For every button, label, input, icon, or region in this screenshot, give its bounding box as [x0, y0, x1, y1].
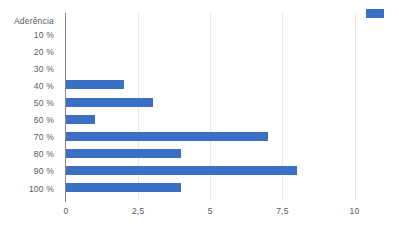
category-label: 60 %	[0, 115, 54, 125]
bar-chart: Aderência 10 %20 %30 %40 %50 %60 %70 %80…	[0, 0, 399, 229]
bar	[66, 149, 181, 158]
category-label: 80 %	[0, 149, 54, 159]
category-label: 30 %	[0, 64, 54, 74]
x-tick-label: 5	[190, 206, 230, 216]
x-tick-label: 0	[46, 206, 86, 216]
category-label: 100 %	[0, 184, 54, 194]
category-label: 20 %	[0, 47, 54, 57]
category-label: 70 %	[0, 132, 54, 142]
category-label: 90 %	[0, 166, 54, 176]
series-title-label: Aderência	[0, 16, 54, 26]
x-tick-label: 2,5	[118, 206, 158, 216]
category-label: 10 %	[0, 30, 54, 40]
bar	[66, 115, 95, 124]
category-label: 50 %	[0, 98, 54, 108]
bar	[66, 183, 181, 192]
bar	[66, 166, 297, 175]
x-tick-label: 7,5	[262, 206, 302, 216]
x-tick-label: 10	[335, 206, 375, 216]
category-axis-labels: Aderência 10 %20 %30 %40 %50 %60 %70 %80…	[0, 0, 60, 200]
bar	[66, 132, 268, 141]
bar	[66, 98, 153, 107]
plot-area	[66, 12, 384, 201]
category-label: 40 %	[0, 81, 54, 91]
legend-swatch	[366, 9, 384, 18]
bar	[66, 80, 124, 89]
